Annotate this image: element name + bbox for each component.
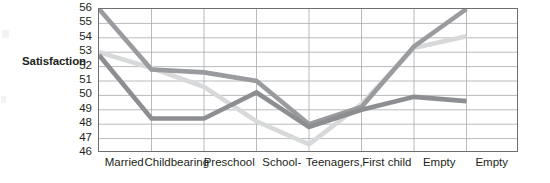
x-tick-label: Married: [105, 156, 144, 168]
y-tick-label: 51: [70, 74, 92, 86]
x-tick-label: Empty: [423, 156, 456, 168]
y-tick-label: 53: [70, 45, 92, 57]
y-tick-label: 52: [70, 60, 92, 72]
x-tick-label: Teenagers,: [306, 156, 363, 168]
x-tick-label: Empty: [475, 156, 508, 168]
y-tick-label: 49: [70, 103, 92, 115]
y-tick-label: 47: [70, 132, 92, 144]
scan-artifact: [2, 30, 9, 38]
y-tick-label: 48: [70, 117, 92, 129]
x-tick-label: Preschool: [204, 156, 255, 168]
satisfaction-line-chart: Satisfaction 5655545352515049484746 Marr…: [0, 0, 550, 183]
y-tick-label: 56: [70, 2, 92, 14]
scan-artifact: [1, 96, 6, 103]
x-tick-label: School-: [262, 156, 301, 168]
x-axis-tick-labels: MarriedChildbearingPreschoolSchool-Teena…: [98, 154, 518, 180]
x-tick-label: Childbearing: [144, 156, 209, 168]
y-tick-label: 46: [70, 146, 92, 158]
y-tick-label: 55: [70, 16, 92, 28]
data-line-series-2: [99, 55, 467, 127]
plot-svg: [99, 9, 518, 152]
plot-area: [98, 8, 518, 152]
y-tick-label: 54: [70, 31, 92, 43]
y-axis-tick-labels: 5655545352515049484746: [68, 0, 92, 183]
x-tick-label: First child: [362, 156, 411, 168]
y-tick-label: 50: [70, 88, 92, 100]
vertical-gridlines: [152, 9, 467, 152]
